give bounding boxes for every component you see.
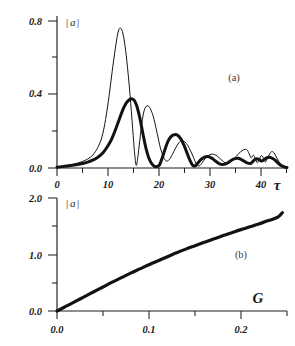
panel-a-curve-thick xyxy=(57,99,287,168)
panel-a-xtick-label-4: 40 xyxy=(255,179,267,190)
figure-svg: 0.8 0.4 0.0 0 xyxy=(0,0,295,346)
panel-a-xtick-label-3: 30 xyxy=(204,179,216,190)
panel-a-curve-thin xyxy=(57,28,287,167)
panel-b-y-axis-title-letter: a xyxy=(70,197,76,209)
panel-b-y-axis-title-bar-right: | xyxy=(77,197,79,209)
panel-a-xtick-label-2: 20 xyxy=(153,179,165,190)
panel-a-xtick-label-0: 0 xyxy=(54,179,60,190)
panel-b-ytick-label-2: 0.0 xyxy=(29,306,43,317)
figure-container: 0.8 0.4 0.0 0 xyxy=(0,0,295,346)
panel-a-ytick-label-0: 0.8 xyxy=(29,16,43,27)
panel-b-curve xyxy=(57,213,282,311)
panel-a-ytick-label-1: 0.4 xyxy=(29,88,42,99)
panel-a-label: (a) xyxy=(228,72,240,84)
panel-a-y-axis-title-bar-left: | xyxy=(66,16,68,28)
panel-a-xtick-label-1: 10 xyxy=(103,179,114,190)
panel-b-xtick-label-1: 0.1 xyxy=(142,324,155,335)
panel-b-ytick-label-0: 2.0 xyxy=(28,193,43,204)
panel-a-y-axis-title: | a | xyxy=(66,16,79,28)
panel-b-y-axis-title: | a | xyxy=(66,197,79,209)
panel-a-x-axis-title: τ xyxy=(274,177,282,193)
panel-b: 2.0 1.0 0.0 0.0 0.1 0.2 xyxy=(28,193,287,335)
panel-b-label: (b) xyxy=(235,249,248,261)
panel-a-ytick-label-2: 0.0 xyxy=(29,163,43,174)
panel-a-y-axis-title-letter: a xyxy=(70,16,76,28)
panel-b-y-axis-title-bar-left: | xyxy=(66,197,68,209)
panel-b-xtick-label-0: 0.0 xyxy=(50,324,64,335)
panel-a: 0.8 0.4 0.0 0 xyxy=(29,16,287,193)
panel-a-y-axis-title-bar-right: | xyxy=(77,16,79,28)
panel-b-ytick-label-1: 1.0 xyxy=(29,250,43,261)
panel-b-x-axis-title: G xyxy=(253,290,264,306)
panel-b-xtick-label-2: 0.2 xyxy=(234,324,248,335)
